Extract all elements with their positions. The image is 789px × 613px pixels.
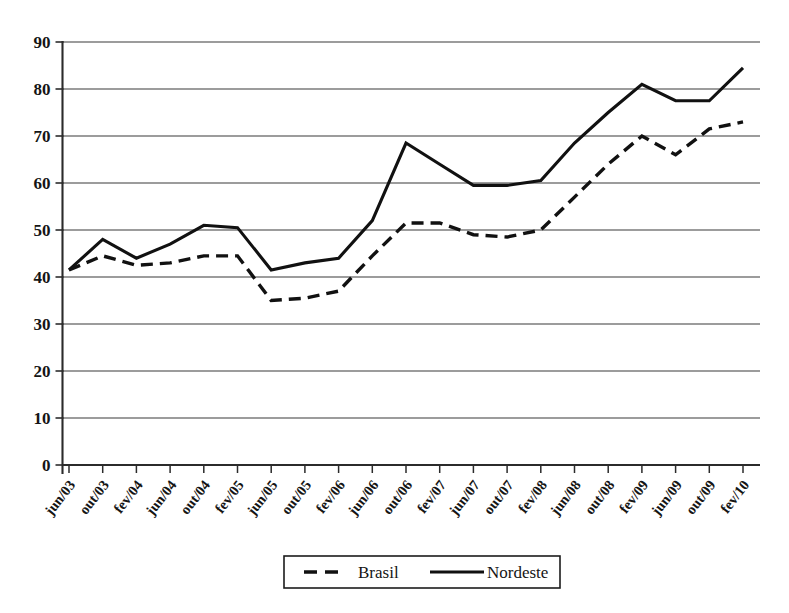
y-tick-label: 50 [34, 221, 51, 240]
y-tick-label: 40 [34, 268, 51, 287]
line-chart: 0102030405060708090 jun/03out/03fev/04ju… [0, 0, 789, 613]
y-tick-label: 30 [34, 315, 51, 334]
y-tick-label: 90 [34, 33, 51, 52]
x-tick-label: jun/06 [344, 477, 382, 519]
x-tick-label: fev/10 [717, 477, 752, 516]
legend: Brasil Nordeste [284, 556, 560, 588]
x-axis-tick-labels: jun/03out/03fev/04jun/04out/04fev/05jun/… [41, 477, 753, 519]
x-tick-label: jun/09 [647, 477, 685, 519]
legend-label-brasil: Brasil [358, 563, 399, 582]
x-tick-label: out/07 [480, 477, 516, 517]
x-tick-label: fev/04 [110, 477, 145, 516]
x-tick-label: out/09 [682, 477, 718, 517]
y-tick-label: 0 [42, 456, 51, 475]
legend-label-nordeste: Nordeste [487, 563, 548, 582]
x-tick-label: out/08 [581, 477, 617, 517]
x-tick-label: fev/06 [313, 477, 348, 516]
x-tick-label: fev/08 [515, 477, 550, 516]
x-tick-label: jun/07 [445, 477, 483, 519]
y-tick-label: 80 [34, 80, 51, 99]
x-tick-label: fev/09 [616, 477, 651, 516]
x-tick-label: jun/08 [546, 477, 584, 519]
x-tick-label: fev/05 [211, 477, 246, 516]
gridlines [63, 42, 761, 465]
x-tick-label: jun/05 [243, 477, 281, 519]
x-axis-ticks [69, 465, 743, 473]
series-line-brasil [69, 122, 743, 301]
x-tick-label: out/04 [177, 477, 213, 517]
y-tick-label: 60 [34, 174, 51, 193]
y-tick-label: 20 [34, 362, 51, 381]
x-tick-label: fev/07 [414, 477, 449, 516]
x-tick-label: out/03 [76, 477, 112, 517]
y-axis-tick-labels: 0102030405060708090 [34, 33, 51, 475]
x-tick-label: jun/04 [142, 477, 180, 519]
x-tick-label: out/05 [278, 477, 314, 517]
x-tick-label: jun/03 [41, 477, 79, 519]
y-tick-label: 70 [34, 127, 51, 146]
y-tick-label: 10 [34, 409, 51, 428]
x-tick-label: out/06 [379, 477, 415, 517]
series-line-nordeste [69, 68, 743, 270]
chart-container: 0102030405060708090 jun/03out/03fev/04ju… [0, 0, 789, 613]
